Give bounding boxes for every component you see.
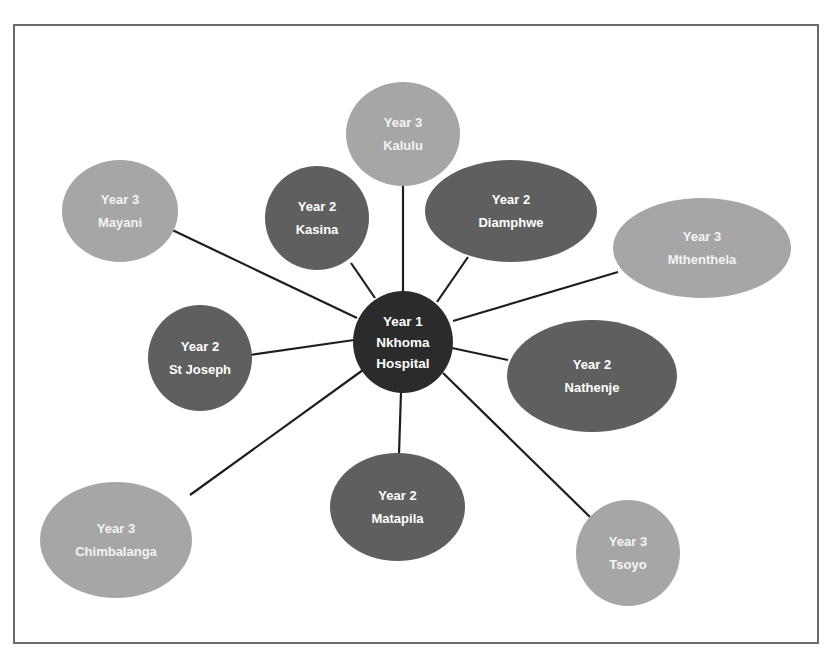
node-year-label: Year 2 (378, 484, 416, 507)
node-name-label: St Joseph (169, 358, 231, 381)
node-year-label: Year 2 (181, 335, 219, 358)
node-name-label: Tsoyo (609, 553, 646, 576)
node-year-label: Year 2 (492, 188, 530, 211)
node-chimbalanga: Year 3 Chimbalanga (40, 482, 192, 598)
node-mayani: Year 3 Mayani (62, 160, 178, 262)
center-year-label: Year 1 (383, 311, 423, 332)
node-kalulu: Year 3 Kalulu (346, 82, 460, 186)
node-year-label: Year 3 (609, 530, 647, 553)
center-name-line2: Hospital (376, 353, 429, 374)
node-name-label: Kalulu (383, 134, 423, 157)
connector-st-joseph (250, 340, 354, 355)
connector-mthenthela (453, 272, 618, 321)
node-kasina: Year 2 Kasina (265, 166, 369, 270)
connector-kasina (351, 263, 375, 298)
node-year-label: Year 3 (683, 225, 721, 248)
node-name-label: Mayani (98, 211, 142, 234)
node-nathenje: Year 2 Nathenje (507, 320, 677, 432)
node-year-label: Year 3 (97, 517, 135, 540)
node-name-label: Kasina (296, 218, 339, 241)
node-name-label: Diamphwe (478, 211, 543, 234)
node-year-label: Year 3 (384, 111, 422, 134)
node-name-label: Matapila (371, 507, 423, 530)
node-year-label: Year 3 (101, 188, 139, 211)
node-mthenthela: Year 3 Mthenthela (613, 198, 791, 298)
node-st-joseph: Year 2 St Joseph (148, 305, 252, 411)
connector-nathenje (452, 348, 508, 360)
connector-diamphwe (437, 257, 468, 302)
node-matapila: Year 2 Matapila (330, 453, 465, 561)
node-year-label: Year 2 (573, 353, 611, 376)
node-diamphwe: Year 2 Diamphwe (425, 160, 597, 262)
node-year-label: Year 2 (298, 195, 336, 218)
node-name-label: Chimbalanga (75, 540, 157, 563)
connector-matapila (399, 392, 401, 454)
node-nkhoma-hospital: Year 1 Nkhoma Hospital (353, 291, 453, 393)
node-name-label: Nathenje (565, 376, 620, 399)
center-name-line1: Nkhoma (376, 332, 429, 353)
node-name-label: Mthenthela (668, 248, 737, 271)
node-tsoyo: Year 3 Tsoyo (576, 500, 680, 606)
